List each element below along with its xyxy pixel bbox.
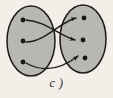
codomain-node <box>83 56 88 61</box>
domain-node <box>21 60 26 65</box>
figure-container: c ) <box>0 0 113 98</box>
domain-node <box>21 18 26 23</box>
codomain-node <box>82 16 87 21</box>
codomain-node <box>81 38 86 43</box>
domain-node <box>21 39 26 44</box>
figure-caption: c ) <box>0 76 113 90</box>
